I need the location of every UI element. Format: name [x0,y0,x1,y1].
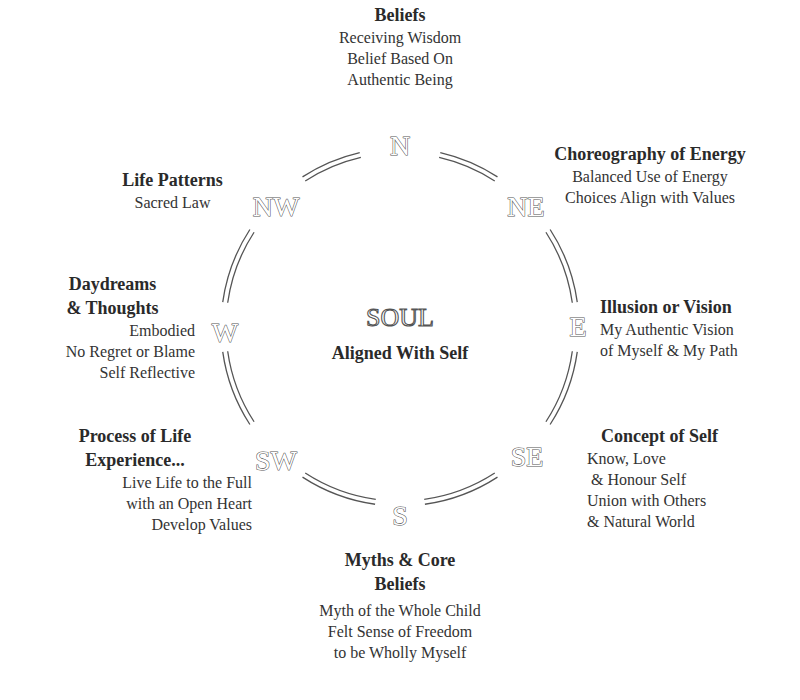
southwest-title-2: Experience... [40,448,230,472]
ring-arc [440,153,497,177]
south-line-1: Myth of the Whole Child [280,600,520,621]
east-block: Illusion or Vision My Authentic Vision o… [600,295,800,361]
south-line-2: Felt Sense of Freedom [280,621,520,642]
west-title-2: & Thoughts [30,296,195,320]
west-line-3: Self Reflective [20,362,195,383]
southwest-line-3: Develop Values [40,514,252,535]
southwest-block: Process of Life Experience... Live Life … [40,424,252,535]
ring-arc [303,477,376,504]
east-title: Illusion or Vision [600,295,800,319]
south-title-1: Myths & Core [280,548,520,572]
center-subtitle: Aligned With Self [300,343,500,364]
south-line-3: to be Wholly Myself [280,642,520,663]
ring-arc [425,477,498,504]
northwest-title: Life Patterns [100,168,245,192]
south-title-2: Beliefs [280,572,520,596]
north-block: Beliefs Receiving Wisdom Belief Based On… [290,3,510,90]
ring-arc [550,230,577,303]
southeast-line-2: & Honour Self [587,469,787,490]
north-title: Beliefs [290,3,510,27]
southeast-line-1: Know, Love [587,448,787,469]
northeast-line-2: Choices Align with Values [520,187,780,208]
northeast-title: Choreography of Energy [520,142,780,166]
southwest-line-2: with an Open Heart [40,493,252,514]
southwest-line-1: Live Life to the Full [40,472,252,493]
compass-nw-label: NW [253,191,300,222]
south-block: Myths & Core Beliefs Myth of the Whole C… [280,548,520,663]
compass-sw-label: SW [255,445,298,476]
north-line-2: Belief Based On [290,48,510,69]
west-title-1: Daydreams [30,272,195,296]
southeast-block: Concept of Self Know, Love & Honour Self… [587,424,787,532]
northeast-block: Choreography of Energy Balanced Use of E… [520,142,780,208]
northwest-block: Life Patterns Sacred Law [100,168,245,213]
north-line-1: Receiving Wisdom [290,27,510,48]
southeast-title: Concept of Self [587,424,787,448]
northwest-line-1: Sacred Law [100,192,245,213]
compass-w-label: W [212,317,239,348]
southeast-line-3: Union with Others [587,490,787,511]
west-line-2: No Regret or Blame [20,341,195,362]
ring-arc [223,352,250,425]
ring-arc [223,230,250,303]
north-line-3: Authentic Being [290,69,510,90]
compass-e-label: E [569,311,586,342]
east-line-1: My Authentic Vision [600,319,800,340]
west-block: Daydreams & Thoughts Embodied No Regret … [20,272,195,383]
compass-s-label: S [392,500,408,531]
compass-se-label: SE [511,441,544,472]
east-line-2: of Myself & My Path [600,340,800,361]
northeast-line-1: Balanced Use of Energy [520,166,780,187]
southwest-title-1: Process of Life [40,424,230,448]
ring-arc [550,352,577,425]
southeast-line-4: & Natural World [587,511,787,532]
center-title: SOUL [366,303,434,332]
compass-n-label: N [390,130,410,161]
west-line-1: Embodied [20,320,195,341]
ring-arc [303,153,360,177]
